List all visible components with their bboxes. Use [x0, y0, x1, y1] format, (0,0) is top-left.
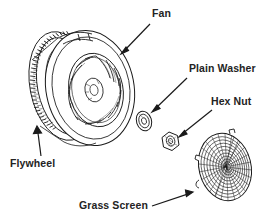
parts-diagram: Fan Plain Washer Hex Nut Flywheel Grass …: [0, 0, 268, 223]
label-flywheel: Flywheel: [10, 157, 55, 169]
diagram-canvas: [0, 0, 268, 223]
label-plain-washer: Plain Washer: [189, 62, 256, 74]
label-fan: Fan: [152, 7, 171, 19]
label-grass-screen: Grass Screen: [79, 199, 148, 211]
label-hex-nut: Hex Nut: [211, 95, 251, 107]
